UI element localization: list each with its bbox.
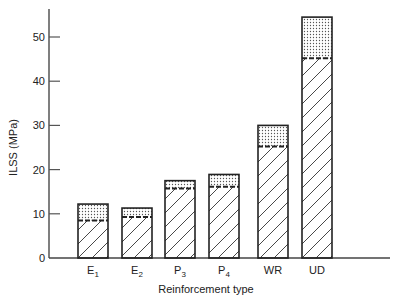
bar-P3 xyxy=(165,181,195,258)
bar-lower-hatch xyxy=(165,189,195,258)
x-tick-label: WR xyxy=(264,264,282,276)
bar-lower-hatch xyxy=(302,58,332,258)
x-axis-title: Reinforcement type xyxy=(158,283,253,295)
bar-upper-stipple xyxy=(78,204,108,220)
bar-upper-stipple xyxy=(209,174,239,186)
x-tick-label: P3 xyxy=(174,264,186,279)
chart-svg: 01020304050ILSS (MPa)E1E2P3P4WRUDReinfor… xyxy=(0,0,402,301)
x-tick-label: P4 xyxy=(218,264,230,279)
bar-WR xyxy=(258,125,288,258)
bar-upper-stipple xyxy=(165,181,195,189)
bar-lower-hatch xyxy=(209,187,239,258)
y-tick-label: 30 xyxy=(33,119,45,131)
bars xyxy=(78,17,332,258)
bar-E2 xyxy=(122,208,152,258)
bar-E1 xyxy=(78,204,108,258)
y-tick-label: 50 xyxy=(33,31,45,43)
bar-P4 xyxy=(209,174,239,258)
x-tick-label: E2 xyxy=(131,264,143,279)
y-tick-label: 20 xyxy=(33,164,45,176)
bar-UD xyxy=(302,17,332,258)
y-axis-title: ILSS (MPa) xyxy=(7,119,19,176)
bar-lower-hatch xyxy=(258,147,288,258)
bar-upper-stipple xyxy=(258,125,288,146)
x-tick-label: UD xyxy=(309,264,325,276)
bar-upper-stipple xyxy=(122,208,152,217)
bar-lower-hatch xyxy=(122,217,152,258)
x-tick-label: E1 xyxy=(87,264,99,279)
y-tick-label: 0 xyxy=(39,252,45,264)
bar-upper-stipple xyxy=(302,17,332,58)
y-tick-label: 10 xyxy=(33,208,45,220)
bar-lower-hatch xyxy=(78,220,108,258)
y-tick-label: 40 xyxy=(33,75,45,87)
